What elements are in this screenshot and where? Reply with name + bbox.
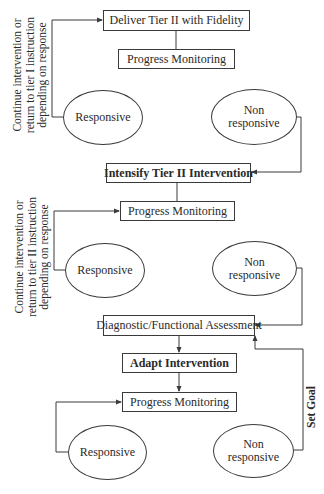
responsive-label-2: Responsive	[77, 264, 132, 277]
side-note-line: Continue intervention or	[11, 17, 24, 133]
progress-monitoring-box-1: Progress Monitoring	[118, 49, 235, 69]
nonresponsive-ellipse-1: Non responsive	[211, 89, 297, 145]
side-note-line: Continue intervention or	[13, 197, 26, 317]
responsive-ellipse-2: Responsive	[65, 243, 145, 298]
side-note-tier2: Continue intervention or return to tier …	[13, 197, 51, 317]
nonresponsive-ellipse-3: Non responsive	[213, 424, 294, 478]
set-goal-label: Set Goal	[305, 386, 317, 428]
side-note-tier1: Continue intervention or return to tier …	[11, 17, 49, 133]
responsive-ellipse-1: Responsive	[63, 90, 143, 145]
non-label-2: Non	[244, 256, 265, 269]
responsive-label-3: Responsive	[80, 446, 135, 459]
deliver-tier2-box: Deliver Tier II with Fidelity	[103, 10, 250, 31]
responsive-word-label-2: responsive	[229, 269, 280, 282]
side-note-line: return to tier I instruction	[24, 17, 37, 133]
intensify-tier2-box: Intensify Tier II Intervention	[106, 163, 251, 183]
adapt-intervention-box: Adapt Intervention	[122, 353, 237, 373]
responsive-word-label-3: responsive	[228, 451, 279, 464]
responsive-ellipse-3: Responsive	[68, 425, 147, 480]
progress-monitoring-box-2: Progress Monitoring	[120, 201, 235, 221]
responsive-word-label-1: responsive	[228, 117, 279, 130]
progress-monitoring-box-3: Progress Monitoring	[122, 392, 237, 412]
responsive-label-1: Responsive	[75, 111, 130, 124]
side-note-line: depending on response	[36, 17, 49, 133]
nonresponsive-ellipse-2: Non responsive	[212, 241, 297, 296]
side-note-line: return to tier II instruction	[26, 197, 39, 317]
side-note-line: depending on response	[38, 197, 51, 317]
diagnostic-assessment-box: Diagnostic/Functional Assessment	[103, 315, 255, 336]
